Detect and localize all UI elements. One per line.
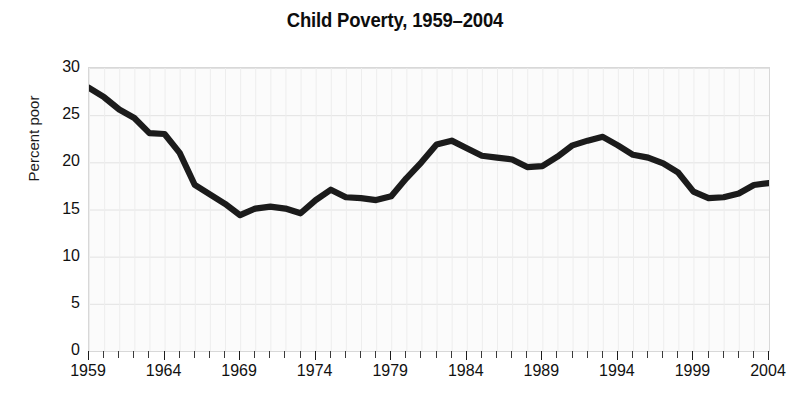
x-tick-label: 1974	[275, 363, 355, 379]
x-tick-label: 1969	[199, 363, 279, 379]
y-tick-label: 5	[38, 295, 80, 311]
x-tick-label: 1959	[48, 363, 128, 379]
x-tick-minor	[360, 351, 361, 358]
x-tick-minor	[118, 351, 119, 358]
x-tick-minor	[481, 351, 482, 358]
chart-figure: Child Poverty, 1959–2004 Percent poor 05…	[0, 0, 790, 399]
y-tick-label: 0	[38, 342, 80, 358]
x-tick-minor	[284, 351, 285, 358]
y-axis-tick-labels: 051015202530	[34, 0, 80, 399]
x-tick-major	[315, 351, 316, 360]
x-tick-minor	[269, 351, 270, 358]
x-tick-minor	[496, 351, 497, 358]
x-tick-major	[768, 351, 769, 360]
x-tick-minor	[148, 351, 149, 358]
x-tick-label: 1979	[350, 363, 430, 379]
x-tick-minor	[405, 351, 406, 358]
x-tick-label: 1984	[426, 363, 506, 379]
y-tick-label: 15	[38, 201, 80, 217]
x-tick-minor	[587, 351, 588, 358]
horizontal-gridlines	[89, 69, 769, 305]
x-tick-major	[164, 351, 165, 360]
x-tick-minor	[133, 351, 134, 358]
x-tick-label: 1999	[652, 363, 732, 379]
x-tick-minor	[632, 351, 633, 358]
x-tick-minor	[662, 351, 663, 358]
x-tick-major	[617, 351, 618, 360]
x-axis-tick-labels: 1959196419691974197919841989199419992004	[0, 363, 790, 387]
x-tick-major	[466, 351, 467, 360]
x-tick-label: 1994	[577, 363, 657, 379]
x-tick-minor	[572, 351, 573, 358]
x-tick-minor	[526, 351, 527, 358]
x-axis-ticks	[88, 351, 769, 360]
x-tick-minor	[436, 351, 437, 358]
x-tick-minor	[330, 351, 331, 358]
x-tick-minor	[254, 351, 255, 358]
x-tick-minor	[602, 351, 603, 358]
x-tick-minor	[451, 351, 452, 358]
x-tick-label: 2004	[728, 363, 790, 379]
x-tick-label: 1989	[501, 363, 581, 379]
y-tick-label: 30	[38, 59, 80, 75]
x-tick-minor	[420, 351, 421, 358]
x-tick-minor	[209, 351, 210, 358]
y-tick-label: 20	[38, 153, 80, 169]
x-tick-minor	[345, 351, 346, 358]
x-tick-major	[239, 351, 240, 360]
series-line-percent-poor	[89, 88, 769, 215]
x-tick-major	[88, 351, 89, 360]
x-tick-major	[541, 351, 542, 360]
x-tick-label: 1964	[124, 363, 204, 379]
x-tick-minor	[677, 351, 678, 358]
series-plot	[89, 68, 769, 351]
plot-area	[88, 67, 770, 352]
x-tick-minor	[556, 351, 557, 358]
x-tick-major	[390, 351, 391, 360]
x-tick-minor	[738, 351, 739, 358]
x-tick-minor	[723, 351, 724, 358]
chart-title: Child Poverty, 1959–2004	[47, 8, 742, 32]
x-tick-major	[692, 351, 693, 360]
x-tick-minor	[511, 351, 512, 358]
x-tick-minor	[179, 351, 180, 358]
y-tick-label: 10	[38, 248, 80, 264]
x-tick-minor	[708, 351, 709, 358]
x-tick-minor	[375, 351, 376, 358]
x-tick-minor	[103, 351, 104, 358]
x-tick-minor	[647, 351, 648, 358]
x-tick-minor	[300, 351, 301, 358]
y-tick-label: 25	[38, 106, 80, 122]
x-tick-minor	[753, 351, 754, 358]
x-tick-minor	[224, 351, 225, 358]
x-tick-minor	[194, 351, 195, 358]
